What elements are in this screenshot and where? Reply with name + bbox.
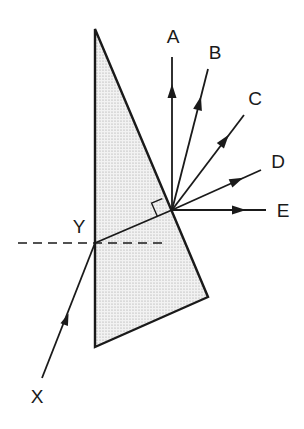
diagram-svg [0, 0, 304, 429]
label-y: Y [73, 217, 86, 236]
label-b: B [209, 43, 222, 62]
arrowhead-d-icon [229, 174, 245, 188]
prism-diagram: A B C D E Y X [0, 0, 304, 429]
ray-b [172, 69, 208, 210]
incident-ray [42, 243, 95, 378]
label-e: E [277, 201, 290, 220]
arrowhead-a-icon [168, 84, 177, 98]
ray-d [172, 170, 261, 210]
label-x: X [31, 387, 44, 406]
ray-c [172, 115, 244, 210]
prism [95, 29, 208, 347]
label-d: D [271, 152, 285, 171]
label-a: A [167, 27, 180, 46]
arrowhead-e-icon [232, 206, 246, 215]
emergent-rays [168, 57, 267, 215]
arrowhead-b-icon [193, 95, 205, 111]
label-c: C [248, 89, 262, 108]
